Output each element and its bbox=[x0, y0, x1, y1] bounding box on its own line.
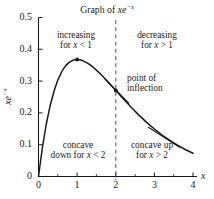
y-axis-label-var: xe bbox=[2, 96, 13, 105]
annotation-poi-line1: point of bbox=[127, 73, 189, 83]
annotation-concave-down-rest: < 2 bbox=[91, 150, 106, 160]
annotation-concave-down-line1: concave bbox=[41, 140, 115, 150]
marker-maximum bbox=[75, 58, 79, 62]
annotation-concave-up-prefix: for bbox=[136, 150, 149, 160]
x-axis-label: x bbox=[201, 170, 205, 181]
y-axis-label: xe−x bbox=[2, 77, 13, 117]
annotation-increasing-prefix: for bbox=[60, 40, 73, 50]
chart-title: Graph of xe−x bbox=[0, 5, 214, 16]
x-tick-label-0: 0 bbox=[32, 179, 46, 190]
annotation-concave-up-line2: for x > 2 bbox=[120, 150, 184, 160]
annotation-poi-line2: inflection bbox=[127, 83, 189, 93]
chart-title-exponent: −x bbox=[126, 3, 133, 10]
y-axis-label-exponent: −x bbox=[1, 88, 8, 96]
annotation-increasing-line2: for x < 1 bbox=[45, 40, 107, 50]
annotation-concave-up-rest: > 2 bbox=[153, 150, 168, 160]
leader-line-inflection bbox=[105, 79, 129, 104]
annotation-concave-down: concave down for x < 2 bbox=[41, 140, 115, 161]
y-tick-label-0.1: 0.1 bbox=[10, 138, 32, 149]
chart-figure: Graph of xe−x 0.5 0.4 0.3 0.2 0.1 0 0 1 … bbox=[0, 0, 214, 199]
x-tick-label-3: 3 bbox=[147, 179, 161, 190]
x-tick-label-4: 4 bbox=[186, 179, 200, 190]
y-tick-label-0.4: 0.4 bbox=[10, 43, 32, 54]
annotation-concave-up-line1: concave up bbox=[120, 140, 184, 150]
x-tick-label-2: 2 bbox=[109, 179, 123, 190]
annotation-decreasing-line1: decreasing bbox=[124, 30, 190, 40]
annotation-decreasing-line2: for x > 1 bbox=[124, 40, 190, 50]
chart-title-prefix: Graph of bbox=[80, 4, 118, 15]
annotation-concave-down-line2: down for x < 2 bbox=[41, 150, 115, 160]
y-tick-label-0.5: 0.5 bbox=[10, 11, 32, 22]
annotation-increasing-rest: < 1 bbox=[77, 40, 92, 50]
annotation-decreasing-prefix: for bbox=[141, 40, 154, 50]
y-tick-label-0: 0 bbox=[10, 170, 32, 181]
annotation-concave-up: concave up for x > 2 bbox=[120, 140, 184, 161]
annotation-concave-down-prefix: down for bbox=[51, 150, 87, 160]
annotation-decreasing-rest: > 1 bbox=[158, 40, 173, 50]
annotation-increasing-line1: increasing bbox=[45, 30, 107, 40]
annotation-decreasing: decreasing for x > 1 bbox=[124, 30, 190, 51]
x-tick-label-1: 1 bbox=[70, 179, 84, 190]
annotation-point-of-inflection: point of inflection bbox=[127, 73, 189, 94]
annotation-increasing: increasing for x < 1 bbox=[45, 30, 107, 51]
